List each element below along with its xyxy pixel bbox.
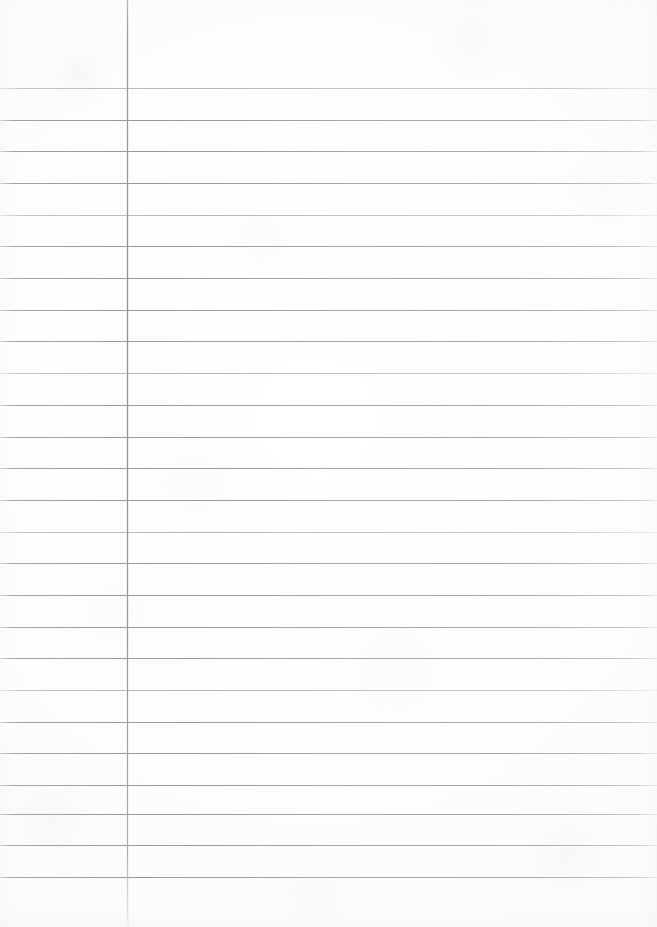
rule-line xyxy=(0,627,657,628)
rule-line xyxy=(0,120,657,121)
rule-line xyxy=(0,500,657,501)
rule-line xyxy=(0,658,657,659)
rule-line xyxy=(0,215,657,216)
rule-line xyxy=(0,437,657,438)
rule-line xyxy=(0,563,657,564)
rule-line xyxy=(0,595,657,596)
rule-line xyxy=(0,785,657,786)
body-column-zone[interactable] xyxy=(128,88,657,888)
rule-line xyxy=(0,814,657,815)
rule-line xyxy=(0,373,657,374)
rule-line xyxy=(0,877,657,878)
rule-line xyxy=(0,341,657,342)
rule-line xyxy=(0,310,657,311)
header-write-zone[interactable] xyxy=(128,0,657,88)
rule-line xyxy=(0,468,657,469)
margin-rule xyxy=(127,0,128,921)
rule-line xyxy=(0,753,657,754)
rule-line xyxy=(0,405,657,406)
rule-line xyxy=(0,88,657,89)
scanned-page xyxy=(0,0,657,927)
rule-line xyxy=(0,183,657,184)
footer-write-zone[interactable] xyxy=(0,878,657,927)
rule-line xyxy=(0,690,657,691)
rule-line xyxy=(0,246,657,247)
rule-line xyxy=(0,532,657,533)
rule-line xyxy=(0,845,657,846)
rule-line xyxy=(0,278,657,279)
rule-line xyxy=(0,151,657,152)
margin-column-zone[interactable] xyxy=(0,88,127,888)
rule-line xyxy=(0,722,657,723)
